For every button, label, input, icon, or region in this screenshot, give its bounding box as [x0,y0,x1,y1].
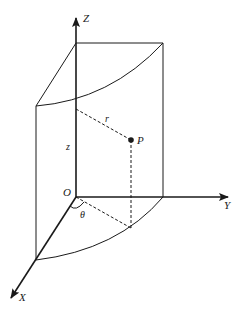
angle-label: θ [80,209,85,220]
top-arc [36,43,163,106]
origin-label: O [63,186,71,198]
point-label: P [136,134,144,146]
radius-label: r [105,113,109,124]
y-axis-label: Y [224,199,232,211]
x-axis-label: X [18,291,27,303]
point-p [128,137,134,143]
radius-line [76,109,131,140]
height-label: z [65,141,70,152]
cylindrical-coordinates-diagram: Z Y X O P r z θ [0,0,243,312]
z-axis-label: Z [83,12,90,24]
top-edge-x [36,43,76,106]
x-axis [11,197,76,298]
